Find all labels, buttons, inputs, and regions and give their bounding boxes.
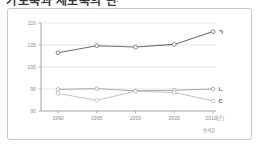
gridlines — [41, 23, 216, 89]
x-tick-label: 1990 — [52, 115, 64, 121]
data-point — [134, 45, 138, 49]
y-tick-label: 105 — [27, 42, 36, 48]
data-point — [211, 87, 215, 91]
data-point — [211, 30, 215, 34]
y-axis-tick-labels: 110 105 100 95 90 — [27, 20, 36, 114]
series-g-path — [58, 32, 213, 53]
series-line-d: ㄷ — [56, 89, 224, 104]
y-tick-label: 110 — [28, 20, 36, 26]
chart-svg: 110 105 100 95 90 1990 1995 2000 2005 20… — [8, 9, 253, 141]
data-point — [172, 43, 176, 47]
x-axis-unit-label: (년) — [216, 114, 225, 121]
data-point — [211, 99, 215, 103]
series-line-g: ㄱ — [56, 29, 224, 55]
y-tick-label: 100 — [27, 64, 36, 70]
data-point — [172, 91, 176, 95]
x-tick-label: 1995 — [91, 115, 103, 121]
line-chart: 110 105 100 95 90 1990 1995 2000 2005 20… — [8, 9, 253, 141]
data-point — [95, 87, 99, 91]
data-point — [56, 88, 60, 92]
series-label-d: ㄷ — [218, 98, 224, 104]
y-tick-label: 95 — [30, 86, 36, 92]
data-point — [134, 89, 138, 93]
page-title-text: 가로축과 세로축의 단위 확인하기 — [6, 0, 118, 6]
data-point — [56, 92, 60, 96]
chart-card-frame: 110 105 100 95 90 1990 1995 2000 2005 20… — [7, 8, 252, 140]
x-tick-label: 2000 — [130, 115, 142, 121]
page-title: 가로축과 세로축의 단위 확인하기 — [6, 0, 118, 6]
x-tick-label: 2005 — [168, 115, 180, 121]
data-point — [95, 44, 99, 48]
x-axis-tick-labels: 1990 1995 2000 2005 2010 — [52, 115, 217, 121]
source-note: 통계청 — [203, 127, 215, 134]
data-point — [56, 51, 60, 55]
series-label-n: ㄴ — [218, 86, 224, 92]
y-tick-label: 90 — [30, 108, 36, 114]
data-point — [95, 99, 99, 103]
series-label-g: ㄱ — [218, 29, 224, 35]
